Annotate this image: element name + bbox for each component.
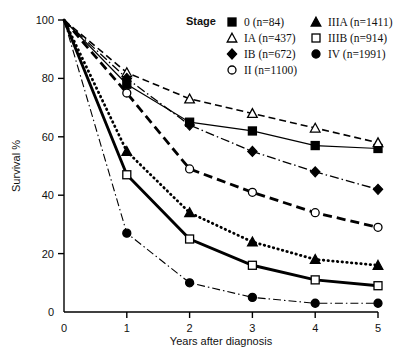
marker-0-y3 [248, 127, 256, 135]
marker-IIIA-y1 [122, 147, 132, 156]
marker-IV-y2 [186, 279, 194, 287]
marker-IIIB-y3 [248, 261, 256, 269]
marker-II-y1 [123, 89, 131, 97]
chart-canvas: 020406080100012345Years after diagnosisS… [0, 0, 394, 351]
marker-IIIB-y5 [374, 282, 382, 290]
legend-title: Stage [186, 15, 216, 27]
x-tick-label-4: 4 [312, 322, 318, 334]
survival-chart-figure: 020406080100012345Years after diagnosisS… [0, 0, 394, 351]
marker-II-y2 [186, 165, 194, 173]
marker-IIIB-y4 [311, 276, 319, 284]
x-axis-title: Years after diagnosis [170, 335, 273, 347]
marker-IA-y2 [185, 94, 195, 103]
legend-label-col2-0: IIIA (n=1411) [328, 16, 393, 29]
y-axis-title: Survival % [10, 140, 22, 192]
marker-IIIB-y1 [123, 171, 131, 179]
legend-marker-col1-0 [228, 18, 236, 26]
marker-IB-y3 [248, 146, 257, 156]
legend-label-col1-2: IB (n=672) [244, 48, 296, 61]
legend-marker-col1-3 [228, 66, 236, 74]
legend-marker-col2-2 [312, 50, 320, 58]
y-tick-label-100: 100 [36, 14, 54, 26]
marker-II-y3 [248, 188, 256, 196]
marker-II-y5 [374, 223, 382, 231]
marker-0-y4 [311, 142, 319, 150]
x-tick-label-5: 5 [375, 322, 381, 334]
legend-marker-col2-0 [311, 17, 321, 26]
y-tick-label-40: 40 [42, 189, 54, 201]
series-line-IB [64, 20, 378, 189]
legend-marker-col1-2 [227, 49, 236, 59]
marker-IIIB-y2 [186, 235, 194, 243]
x-tick-label-3: 3 [249, 322, 255, 334]
marker-IB-y4 [311, 167, 320, 177]
legend-marker-col2-1 [312, 34, 320, 42]
legend-label-col1-3: II (n=1100) [244, 64, 297, 77]
y-tick-label-20: 20 [42, 248, 54, 260]
legend-label-col1-0: 0 (n=84) [244, 16, 284, 29]
marker-IV-y4 [311, 299, 319, 307]
marker-IV-y5 [374, 299, 382, 307]
series-line-IV [64, 20, 378, 303]
marker-IV-y1 [123, 229, 131, 237]
y-tick-label-60: 60 [42, 131, 54, 143]
marker-IIIA-y2 [185, 208, 195, 217]
marker-IA-y5 [373, 138, 383, 147]
legend-marker-col1-1 [227, 33, 237, 42]
legend-label-col2-1: IIIB (n=914) [328, 32, 387, 45]
marker-IB-y5 [373, 184, 382, 194]
legend-label-col2-2: IV (n=1991) [328, 48, 386, 61]
x-tick-label-0: 0 [61, 322, 67, 334]
y-tick-label-0: 0 [48, 306, 54, 318]
marker-IV-y3 [248, 293, 256, 301]
y-tick-label-80: 80 [42, 72, 54, 84]
x-tick-label-1: 1 [124, 322, 130, 334]
legend-label-col1-1: IA (n=437) [244, 32, 296, 45]
x-tick-label-2: 2 [187, 322, 193, 334]
marker-II-y4 [311, 209, 319, 217]
